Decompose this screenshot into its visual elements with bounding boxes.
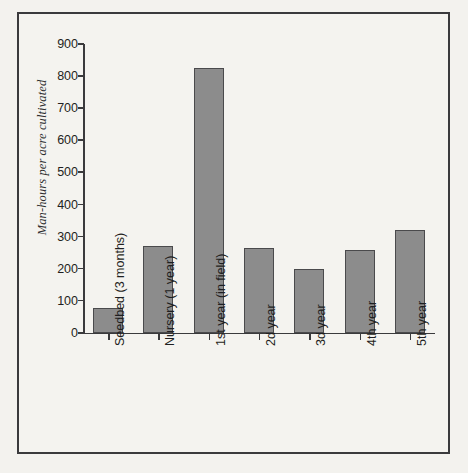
x-axis-tick-mark [209,333,210,340]
plot-area: Man-hours per acre cultivated 9008007006… [0,0,468,473]
y-axis-tick-label: 700 [44,101,78,115]
y-axis-tick-label: 0 [44,326,78,340]
x-axis-tick-label: 5th year [415,301,429,346]
y-axis-tick-label: 200 [44,262,78,276]
x-axis-tick-label: 1st year (in field) [214,254,228,346]
x-axis-tick-label: Seedbed (3 months) [113,233,127,346]
x-axis-tick-mark [259,333,260,340]
x-axis-tick-label: Nursery (1 year) [163,256,177,346]
x-axis-tick-mark [410,333,411,340]
y-axis-tick-label: 900 [44,37,78,51]
y-axis-tick-label: 500 [44,165,78,179]
x-axis-tick-mark [158,333,159,340]
y-axis-tick-label: 300 [44,230,78,244]
x-axis-tick-mark [108,333,109,340]
y-axis-tick-label: 100 [44,294,78,308]
y-axis-tick-label: 800 [44,69,78,83]
y-axis-tick-label: 400 [44,198,78,212]
x-axis-tick-label: 2d year [264,304,278,346]
y-axis-tick-label: 600 [44,133,78,147]
chart-page: Man-hours per acre cultivated 9008007006… [0,0,468,473]
x-axis-tick-label: 4th year [365,301,379,346]
x-axis-tick-mark [309,333,310,340]
y-axis-line [83,44,85,334]
x-axis-tick-mark [360,333,361,340]
x-axis-tick-label: 3d year [314,304,328,346]
